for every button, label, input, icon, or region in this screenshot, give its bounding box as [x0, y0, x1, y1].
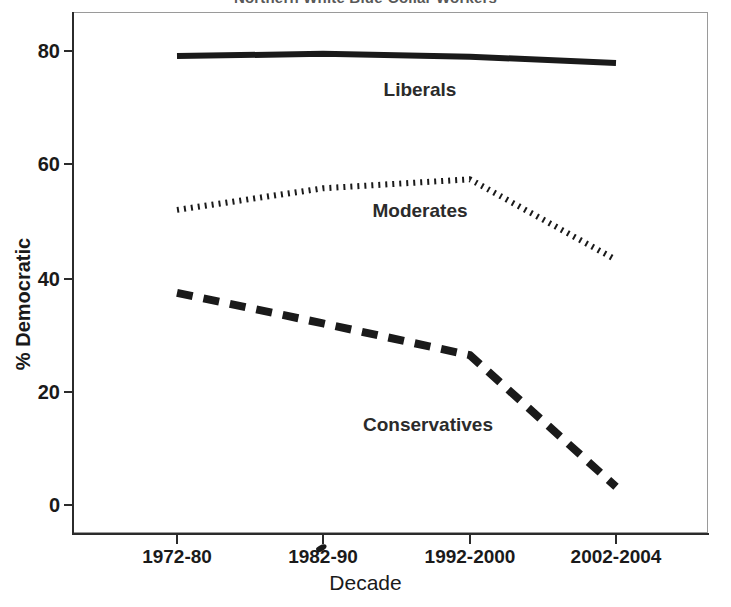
y-tick-label: 60 [0, 153, 60, 176]
x-tick-label: 2002-2004 [571, 546, 662, 568]
x-tick-label: 1992-2000 [425, 546, 516, 568]
x-tick-mark [615, 534, 617, 544]
series-label-conservatives: Conservatives [363, 414, 493, 436]
x-tick-label: 1972-80 [142, 546, 212, 568]
y-tick-mark [64, 50, 73, 52]
x-tick-mark [176, 534, 178, 544]
x-tick-mark [322, 534, 324, 544]
y-axis-title: % Democratic [12, 219, 35, 389]
y-tick-label: 80 [0, 40, 60, 63]
y-tick-mark [64, 163, 73, 165]
y-axis-line [72, 12, 74, 534]
x-axis-line [72, 533, 709, 535]
chart-title: Northern White Blue-Collar Workers [0, 0, 731, 6]
series-label-moderates: Moderates [372, 200, 467, 222]
series-label-liberals: Liberals [384, 79, 457, 101]
x-tick-mark [469, 534, 471, 544]
y-tick-mark [64, 391, 73, 393]
chart-root: Northern White Blue-Collar Workers 80604… [0, 0, 731, 607]
y-tick-mark [64, 504, 73, 506]
y-tick-label: 0 [0, 494, 60, 517]
y-tick-mark [64, 278, 73, 280]
x-axis-title: Decade [0, 571, 731, 595]
